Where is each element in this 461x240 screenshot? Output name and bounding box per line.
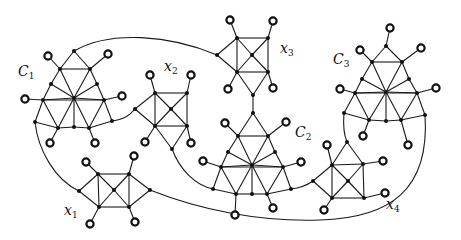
connector-edge	[112, 109, 135, 121]
pendant-vertex-icon	[282, 118, 289, 125]
pendant-vertex-icon	[86, 220, 93, 227]
vertex-c3	[360, 77, 364, 81]
vertex-c1	[41, 98, 45, 102]
edge-c2	[221, 152, 228, 167]
edge-x1	[98, 174, 99, 207]
edge-c3	[409, 79, 417, 93]
vertex-x1	[112, 188, 116, 192]
edge-c2	[268, 136, 275, 152]
edge-c1	[74, 51, 90, 69]
vertex-x1	[127, 172, 131, 176]
edge-x4	[348, 181, 364, 198]
edge-x3	[237, 55, 252, 72]
connector-edge	[74, 37, 217, 55]
pendant-vertex-icon	[82, 158, 89, 165]
vertex-c1	[95, 82, 99, 86]
vertex-c2	[234, 192, 238, 196]
graph-svg: C1x2x3C3C2x4x1	[0, 0, 461, 240]
vertex-x3	[251, 93, 255, 97]
pendant-vertex-icon	[323, 141, 330, 148]
vertex-x3	[250, 53, 254, 57]
pendant-vertex-icon	[359, 132, 366, 139]
pendant-vertex-icon	[269, 204, 276, 211]
edge-x1	[114, 174, 129, 190]
vertex-c2	[211, 187, 215, 191]
vertex-x4	[330, 163, 334, 167]
edge-x4	[332, 165, 348, 181]
edge-x4	[332, 164, 363, 165]
edge-x3	[252, 38, 268, 55]
edge-x2	[135, 109, 155, 126]
edge-x1	[114, 190, 129, 207]
vertex-x1	[148, 188, 152, 192]
edge-x4	[363, 164, 364, 198]
edge-c3	[355, 93, 369, 120]
edge-c1	[35, 122, 58, 128]
edge-c1	[58, 98, 74, 128]
edge-x2	[155, 126, 172, 149]
edge-x2	[155, 93, 171, 109]
connector-edge	[35, 122, 79, 191]
vertex-c3	[415, 91, 419, 95]
vertex-x3	[235, 36, 239, 40]
connector-edge	[172, 149, 213, 189]
edge-x3	[237, 72, 253, 95]
edge-x2	[171, 93, 187, 109]
edge-x2	[135, 93, 155, 109]
vertex-c3	[423, 113, 427, 117]
vertex-x4	[311, 179, 315, 183]
pendant-vertex-icon	[187, 139, 194, 146]
vertex-c1	[88, 67, 92, 71]
edge-c3	[362, 62, 372, 79]
component-edges	[35, 38, 425, 207]
vertex-x2	[153, 91, 157, 95]
label-x2: x2	[164, 58, 178, 76]
vertex-x3	[266, 70, 270, 74]
edge-c3	[386, 120, 401, 121]
pendant-vertex-icon	[417, 44, 424, 51]
edge-c1	[60, 51, 74, 69]
edge-c1	[74, 98, 89, 128]
vertex-c1	[72, 125, 76, 129]
edge-c3	[369, 92, 386, 120]
vertex-c1	[87, 126, 91, 130]
pendant-vertex-icon	[226, 16, 233, 23]
connector-edge	[291, 181, 313, 189]
label-c2: C2	[295, 124, 311, 142]
edge-c1	[104, 100, 112, 121]
edge-c1	[74, 127, 89, 128]
pendant-vertex-icon	[231, 211, 238, 218]
vertex-c3	[384, 44, 388, 48]
vertex-c3	[384, 119, 388, 123]
edge-c3	[372, 62, 386, 92]
vertex-c1	[72, 96, 76, 100]
edge-c2	[238, 113, 253, 136]
vertex-x2	[185, 124, 189, 128]
vertex-c1	[102, 98, 106, 102]
edge-x2	[155, 109, 171, 126]
pendant-vertex-icon	[432, 84, 439, 91]
pendant-vertex-icon	[379, 157, 386, 164]
pendant-vertex-icon	[146, 71, 153, 78]
vertex-x1	[96, 172, 100, 176]
vertex-c3	[399, 118, 403, 122]
edge-c1	[35, 100, 43, 122]
vertex-c1	[49, 82, 53, 86]
vertex-c2	[266, 134, 270, 138]
edge-c2	[267, 167, 283, 194]
edge-c2	[267, 189, 291, 194]
vertex-x4	[362, 196, 366, 200]
edge-c1	[51, 69, 60, 84]
edge-x3	[217, 38, 237, 55]
edge-c2	[228, 136, 238, 152]
pendant-vertex-icon	[356, 46, 363, 53]
vertex-x4	[345, 140, 349, 144]
vertex-c1	[110, 119, 114, 123]
edge-x3	[253, 72, 268, 95]
edge-c1	[58, 127, 74, 128]
edge-c2	[221, 167, 236, 194]
component-labels: C1x2x3C3C2x4x1	[18, 40, 400, 220]
edge-x3	[237, 38, 252, 55]
vertex-x1	[77, 189, 81, 193]
vertex-x4	[330, 196, 334, 200]
